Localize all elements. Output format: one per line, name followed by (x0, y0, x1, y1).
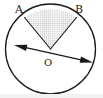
vertex-label-A: A (15, 4, 23, 15)
geometry-figure: A B O (0, 0, 103, 98)
vertex-label-B: B (75, 4, 83, 15)
arrow-group (14, 45, 93, 63)
sector-AOB-fill (25, 9, 77, 49)
arrow-shaft (20, 46, 86, 61)
arrow-head-right-icon (80, 57, 93, 63)
sector-group (25, 9, 77, 49)
center-label-O: O (44, 57, 52, 68)
bottom-edge-band (0, 94, 103, 98)
arrow-head-left-icon (14, 45, 27, 51)
